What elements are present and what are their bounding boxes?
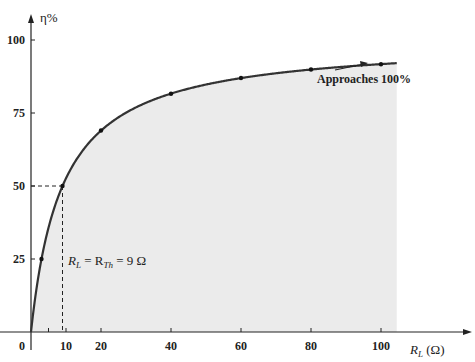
shaded-region [31,63,397,332]
y-tick-label: 25 [13,252,25,266]
x-axis-title: RL (Ω) [409,342,445,359]
x-tick-label: 10 [60,339,72,353]
x-tick-label: 80 [305,339,317,353]
y-axis-arrow-icon [28,14,34,23]
x-tick-label: 60 [235,339,247,353]
x-tick-label: 100 [372,339,390,353]
approaches-annotation: Approaches 100% [317,61,411,86]
x-tick-label: 40 [165,339,177,353]
y-tick-label: 75 [13,106,25,120]
y-tick-label: 100 [7,33,25,47]
x-tick-label: 0 [19,339,25,353]
data-point [99,128,103,132]
shaded-area [31,63,397,332]
y-axis-title: η% [40,10,58,25]
x-axis-arrow-icon [463,329,472,335]
data-point [60,184,64,188]
data-point [169,92,173,96]
y-tick-label: 50 [13,179,25,193]
efficiency-chart: 01020406080100255075100 η% RL (Ω) Approa… [0,0,475,362]
data-point [309,67,313,71]
approaches-label: Approaches 100% [317,72,411,86]
x-tick-label: 20 [95,339,107,353]
data-point [39,257,43,261]
data-point [239,76,243,80]
data-point [379,62,383,66]
